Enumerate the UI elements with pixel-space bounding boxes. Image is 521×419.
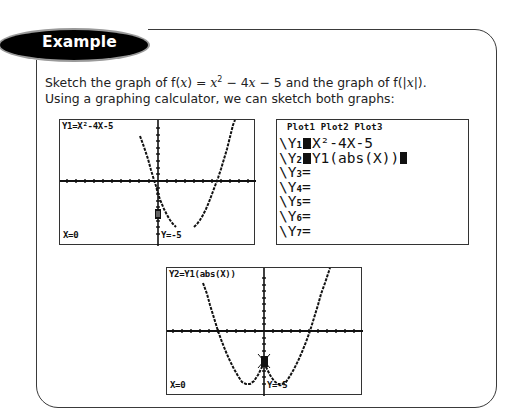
y-label: \Y: [279, 208, 296, 224]
y-subscript: 2: [296, 155, 301, 165]
text-fragment: ) =: [187, 75, 210, 90]
y-label: \Y: [279, 179, 296, 195]
y-equation-row-6[interactable]: \Y6=: [279, 209, 408, 224]
y-label: \Y: [279, 150, 296, 166]
y-label: \Y: [279, 164, 296, 180]
text-cursor-icon: [400, 152, 407, 164]
y-expression: =: [302, 208, 311, 224]
text-fragment: Sketch the graph of: [45, 75, 171, 90]
selected-equals-icon[interactable]: [303, 138, 311, 149]
y-expression: =: [302, 193, 311, 209]
y-equation-row-4[interactable]: \Y4=: [279, 180, 408, 195]
y-label: \Y: [279, 193, 296, 209]
y-expression: Y1(abs(X)): [312, 150, 399, 166]
calculator-graph-screen-1: Y1=X²-4X-5 X=0 Y=-5: [59, 119, 255, 245]
text-fragment: − 5 and the graph of f(|: [256, 75, 407, 90]
y-equation-list: \Y1X²-4X-5 \Y2Y1(abs(X)) \Y3= \Y4= \Y5= …: [279, 136, 408, 238]
graph1-x-readout: X=0: [63, 230, 78, 240]
graph1-y-readout: Y=-5: [161, 230, 181, 240]
graph2-y-readout: Y=-5: [267, 380, 287, 390]
plot-toggles[interactable]: Plot1 Plot2 Plot3: [287, 122, 383, 132]
calculator-graph-screen-2: Y2=Y1(abs(X)) X=0 Y=-5: [166, 267, 362, 395]
instruction-text: Using a graphing calculator, we can sket…: [45, 91, 395, 106]
y-equation-row-7[interactable]: \Y7=: [279, 224, 408, 239]
problem-statement: Sketch the graph of f(x) = x2 − 4x − 5 a…: [45, 75, 427, 90]
graph2-x-readout: X=0: [170, 380, 185, 390]
parabola-graph-1: [60, 120, 256, 246]
y-expression: =: [302, 179, 311, 195]
text-fragment: − 4: [222, 75, 248, 90]
y-expression: =: [302, 223, 311, 239]
math-variable: x: [249, 75, 256, 90]
y-expression: X²-4X-5: [312, 135, 373, 151]
text-fragment: |).: [414, 75, 427, 90]
text-fragment: f(: [171, 75, 180, 90]
graph1-function-label: Y1=X²-4X-5: [62, 121, 113, 131]
y-equation-row-3[interactable]: \Y3=: [279, 165, 408, 180]
calculator-equation-editor: Plot1 Plot2 Plot3 \Y1X²-4X-5 \Y2Y1(abs(X…: [276, 119, 469, 245]
y-label: \Y: [279, 135, 296, 151]
y-expression: =: [302, 164, 311, 180]
y-equation-row-5[interactable]: \Y5=: [279, 194, 408, 209]
y-subscript: 1: [296, 140, 301, 150]
absolute-value-graph: [167, 268, 363, 396]
y-label: \Y: [279, 223, 296, 239]
graph2-function-label: Y2=Y1(abs(X)): [169, 269, 236, 279]
y-equation-row-2[interactable]: \Y2Y1(abs(X)): [279, 151, 408, 166]
math-variable: x: [407, 75, 414, 90]
example-header-label: Example: [42, 33, 117, 51]
y-equation-row-1[interactable]: \Y1X²-4X-5: [279, 136, 408, 151]
selected-equals-icon[interactable]: [303, 153, 311, 164]
